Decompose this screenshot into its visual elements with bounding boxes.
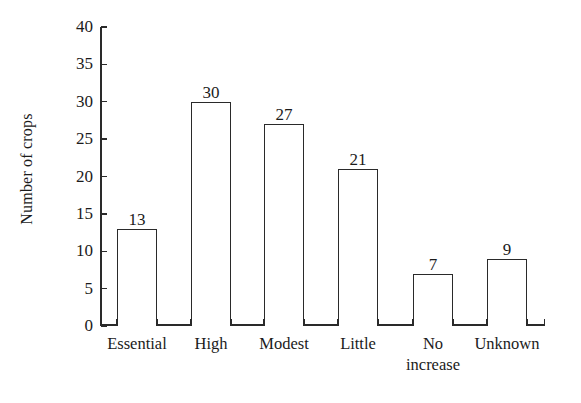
y-axis-tick <box>101 251 107 252</box>
y-axis-tick <box>101 288 107 289</box>
plot-area: 0510152025303540 1330272179 <box>100 27 545 326</box>
y-axis-tick-label: 5 <box>85 280 94 297</box>
y-axis-tick <box>101 213 107 214</box>
x-axis-tick <box>544 319 545 326</box>
y-axis-tick-label: 25 <box>76 130 93 147</box>
bar: 30 <box>191 102 231 326</box>
y-axis-title: Number of crops <box>18 79 36 259</box>
x-axis-tick-label: Unknown <box>447 333 567 354</box>
y-axis-tick-label: 20 <box>76 168 93 185</box>
bar: 9 <box>487 259 527 326</box>
bar-value-label: 30 <box>203 84 220 101</box>
bar-value-label: 9 <box>503 241 512 258</box>
y-axis-tick-label: 0 <box>85 317 94 334</box>
bar-value-label: 7 <box>429 256 438 273</box>
bar: 7 <box>413 274 453 326</box>
bar-chart: Number of crops 0510152025303540 1330272… <box>0 0 581 403</box>
y-axis-tick-label: 40 <box>76 18 93 35</box>
y-axis-tick-label: 10 <box>76 242 93 259</box>
bar-value-label: 13 <box>129 211 146 228</box>
y-axis-tick-label: 30 <box>76 93 93 110</box>
y-axis-tick <box>101 325 107 326</box>
bar-value-label: 21 <box>350 151 367 168</box>
y-axis-tick <box>101 138 107 139</box>
x-axis-line <box>100 324 545 326</box>
y-axis-tick <box>101 64 107 65</box>
bar: 27 <box>264 124 304 326</box>
y-axis-tick-label: 35 <box>76 56 93 73</box>
y-axis-tick <box>101 101 107 102</box>
bar: 21 <box>338 169 378 326</box>
bar: 13 <box>117 229 157 326</box>
y-axis-tick <box>101 26 107 27</box>
y-axis-tick <box>101 176 107 177</box>
y-axis-tick-label: 15 <box>76 205 93 222</box>
bar-value-label: 27 <box>276 106 293 123</box>
